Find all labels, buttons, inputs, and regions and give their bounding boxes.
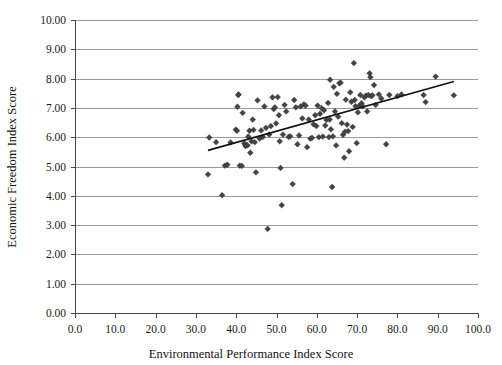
data-point-marker bbox=[371, 82, 377, 88]
data-point-marker bbox=[273, 121, 279, 127]
data-point-marker bbox=[206, 135, 212, 141]
data-point-marker bbox=[240, 110, 246, 116]
data-point-marker bbox=[351, 60, 357, 66]
data-point-marker bbox=[364, 109, 370, 115]
data-point-marker bbox=[250, 117, 256, 123]
data-point-marker bbox=[327, 77, 333, 83]
data-point-marker bbox=[341, 155, 347, 161]
data-point-marker bbox=[213, 139, 219, 145]
data-point-marker bbox=[280, 132, 286, 138]
y-tick-label: 1.00 bbox=[46, 278, 66, 290]
y-tick-label: 3.00 bbox=[46, 219, 66, 231]
data-point-marker bbox=[354, 140, 360, 146]
data-points bbox=[205, 60, 457, 232]
trend-line-segment bbox=[208, 82, 454, 151]
x-tick-label: 30.0 bbox=[186, 323, 206, 335]
x-tick-label: 0.0 bbox=[68, 323, 83, 335]
data-point-marker bbox=[350, 124, 356, 130]
data-point-marker bbox=[423, 99, 429, 105]
x-axis bbox=[75, 313, 479, 318]
y-tick-label: 6.00 bbox=[46, 131, 66, 143]
data-point-marker bbox=[279, 202, 285, 208]
gridlines bbox=[75, 21, 478, 314]
data-point-marker bbox=[328, 126, 334, 132]
y-tick-labels: 0.001.002.003.004.005.006.007.008.009.00… bbox=[40, 14, 66, 319]
data-point-marker bbox=[253, 169, 259, 175]
scatter-chart: 0.001.002.003.004.005.006.007.008.009.00… bbox=[0, 0, 502, 365]
data-point-marker bbox=[334, 91, 340, 97]
data-point-marker bbox=[295, 141, 301, 147]
data-point-marker bbox=[282, 102, 288, 108]
y-axis bbox=[71, 20, 76, 314]
data-point-marker bbox=[383, 141, 389, 147]
x-tick-label: 70.0 bbox=[347, 323, 367, 335]
data-point-marker bbox=[304, 144, 310, 150]
x-tick-label: 10.0 bbox=[105, 323, 125, 335]
data-point-marker bbox=[205, 172, 211, 178]
chart-canvas: 0.001.002.003.004.005.006.007.008.009.00… bbox=[0, 0, 502, 365]
y-tick-label: 0.00 bbox=[46, 307, 66, 319]
data-point-marker bbox=[347, 89, 353, 95]
data-point-marker bbox=[320, 134, 326, 140]
x-tick-label: 60.0 bbox=[307, 323, 327, 335]
data-point-marker bbox=[325, 100, 331, 106]
data-point-marker bbox=[346, 148, 352, 154]
data-point-marker bbox=[219, 192, 225, 198]
data-point-marker bbox=[329, 184, 335, 190]
y-tick-label: 10.00 bbox=[40, 14, 66, 26]
data-point-marker bbox=[421, 92, 427, 98]
data-point-marker bbox=[255, 97, 261, 103]
data-point-marker bbox=[283, 109, 289, 115]
x-tick-labels: 0.010.020.030.040.050.060.070.080.090.01… bbox=[68, 323, 491, 335]
data-point-marker bbox=[265, 226, 271, 232]
x-tick-label: 100.0 bbox=[465, 323, 491, 335]
trend-line bbox=[208, 82, 454, 151]
data-point-marker bbox=[258, 128, 264, 134]
y-tick-label: 9.00 bbox=[46, 43, 66, 55]
y-tick-label: 2.00 bbox=[46, 248, 66, 260]
data-point-marker bbox=[278, 165, 284, 171]
data-point-marker bbox=[312, 112, 318, 118]
data-point-marker bbox=[291, 97, 297, 103]
data-point-marker bbox=[331, 84, 337, 90]
y-tick-label: 4.00 bbox=[46, 190, 66, 202]
x-tick-label: 80.0 bbox=[387, 323, 407, 335]
x-tick-label: 40.0 bbox=[226, 323, 246, 335]
data-point-marker bbox=[270, 94, 276, 100]
y-tick-label: 8.00 bbox=[46, 73, 66, 85]
data-point-marker bbox=[344, 122, 350, 128]
data-point-marker bbox=[433, 74, 439, 80]
data-point-marker bbox=[386, 92, 392, 98]
data-point-marker bbox=[276, 112, 282, 118]
data-point-marker bbox=[290, 181, 296, 187]
data-point-marker bbox=[333, 143, 339, 149]
y-tick-label: 7.00 bbox=[46, 102, 66, 114]
x-axis-title: Environmental Performance Index Score bbox=[149, 347, 354, 361]
x-tick-label: 20.0 bbox=[146, 323, 166, 335]
x-tick-label: 50.0 bbox=[266, 323, 286, 335]
data-point-marker bbox=[299, 116, 305, 122]
data-point-marker bbox=[355, 109, 361, 115]
data-point-marker bbox=[293, 104, 299, 110]
data-point-marker bbox=[339, 120, 345, 126]
data-point-marker bbox=[247, 150, 253, 156]
data-point-marker bbox=[317, 111, 323, 117]
y-tick-label: 5.00 bbox=[46, 161, 66, 173]
data-point-marker bbox=[451, 92, 457, 98]
data-point-marker bbox=[277, 138, 283, 144]
y-axis-title: Economic Freedom Index Score bbox=[5, 86, 19, 248]
data-point-marker bbox=[275, 94, 281, 100]
x-tick-label: 90.0 bbox=[428, 323, 448, 335]
data-point-marker bbox=[343, 97, 349, 103]
data-point-marker bbox=[322, 123, 328, 129]
